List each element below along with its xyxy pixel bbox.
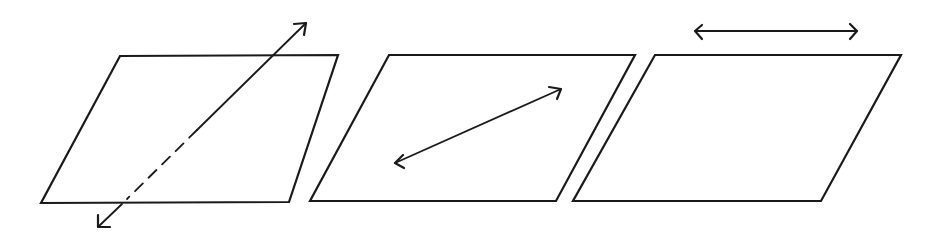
panel-line-parallel-to-plane [573,24,901,201]
line-solid-upper [197,23,306,130]
plane-1 [41,55,338,203]
line-in-plane [395,89,561,163]
line-solid-lower [98,204,122,227]
panel-line-intersecting-plane [41,23,338,227]
line-hidden-dashed [127,130,197,199]
arrowhead-left-icon [695,25,702,39]
diagram-canvas [0,0,938,242]
